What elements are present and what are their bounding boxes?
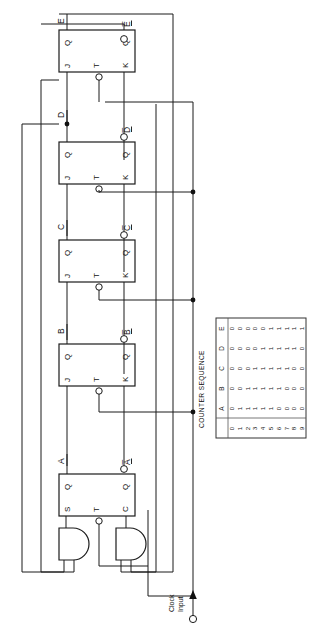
table-cell-D-1: 0 — [236, 346, 243, 350]
table-cell-A-1: 1 — [236, 406, 243, 410]
signal-label-B: B — [56, 328, 66, 334]
pin-label-D-T: T — [92, 175, 101, 180]
signal-B: B B̅ — [56, 324, 195, 470]
pin-label-C-Q: Q — [63, 250, 72, 256]
table-cell-B-0: 0 — [228, 386, 235, 390]
table-cell-C-9: 0 — [298, 366, 305, 370]
pin-label-C-K: K — [121, 272, 130, 278]
table-cell-B-9: 0 — [298, 386, 305, 390]
table-cell-B-3: 1 — [251, 386, 258, 390]
table-count-9: 9 — [298, 426, 305, 430]
pin-label-A-Qbar: Q — [121, 484, 130, 490]
circuit-diagram: Q Q J T K E E̅ Q Q J T K — [0, 0, 323, 630]
table-cell-A-0: 0 — [228, 406, 235, 410]
table-count-2: 2 — [244, 426, 251, 430]
pin-label-C-Qbar: Q — [121, 250, 130, 256]
table-cell-E-8: 1 — [290, 326, 297, 330]
table-count-0: 0 — [228, 426, 235, 430]
table-cell-D-4: 1 — [259, 346, 266, 350]
pin-label-A-C: C — [121, 506, 130, 512]
pin-label-E-J: J — [63, 64, 72, 68]
table-cell-C-5: 1 — [267, 366, 274, 370]
pin-label-D-J: J — [63, 176, 72, 180]
table-count-8: 8 — [290, 426, 297, 430]
pin-label-D-Q: Q — [63, 152, 72, 158]
table-caption: COUNTER SEQUENCE — [198, 350, 206, 428]
pin-label-C-J: J — [63, 274, 72, 278]
table-cell-A-8: 0 — [290, 406, 297, 410]
signal-label-D: D — [56, 112, 66, 118]
table-count-3: 3 — [251, 426, 258, 430]
table-cell-C-6: 1 — [275, 366, 282, 370]
table-cell-D-2: 0 — [244, 346, 251, 350]
table-cell-B-5: 1 — [267, 386, 274, 390]
and-gate-set[interactable] — [22, 516, 89, 572]
pin-label-E-K: K — [121, 62, 130, 68]
table-column-header-C: C — [218, 366, 225, 371]
table-cell-A-9: 0 — [298, 406, 305, 410]
table-cell-C-1: 0 — [236, 366, 243, 370]
table-column-header-D: D — [218, 346, 225, 351]
table-cell-D-8: 1 — [290, 346, 297, 350]
clock-input[interactable]: Clock Input — [168, 590, 197, 623]
table-cell-B-7: 0 — [283, 386, 290, 390]
signal-D: D D̅ — [56, 110, 195, 272]
pin-label-A-S: S — [63, 507, 72, 512]
table-cell-D-0: 0 — [228, 346, 235, 350]
pin-label-B-J: J — [63, 378, 72, 382]
signal-E: E E̅ — [41, 14, 132, 160]
signal-label-E: E — [56, 18, 66, 24]
counter-sequence-table: COUNTER SEQUENCE E0000011111D0000111110C… — [198, 318, 306, 438]
table-cell-A-4: 1 — [259, 406, 266, 410]
table-cell-A-2: 1 — [244, 406, 251, 410]
pin-label-C-T: T — [92, 273, 101, 278]
signal-label-D-bar: D̅ — [122, 127, 132, 133]
pin-label-B-Qbar: Q — [121, 354, 130, 360]
table-cell-D-6: 1 — [275, 346, 282, 350]
signal-C: C C̅ — [56, 220, 195, 374]
pin-label-D-K: K — [121, 174, 130, 180]
table-cell-B-8: 0 — [290, 386, 297, 390]
table-cell-D-9: 0 — [298, 346, 305, 350]
schematic-canvas: Q Q J T K E E̅ Q Q J T K — [0, 0, 323, 630]
table-count-7: 7 — [283, 426, 290, 430]
table-cell-B-4: 1 — [259, 386, 266, 390]
flipflop-A[interactable]: Q Q S T C — [59, 474, 135, 516]
signal-label-C-bar: C̅ — [122, 225, 132, 231]
table-cell-C-0: 0 — [228, 366, 235, 370]
table-cell-B-2: 1 — [244, 386, 251, 390]
clock-label-line1: Clock — [168, 594, 175, 612]
signal-label-C: C — [56, 224, 66, 230]
table-cell-D-5: 1 — [267, 346, 274, 350]
table-cell-E-2: 0 — [244, 326, 251, 330]
signal-label-A-bar: A̅ — [122, 459, 132, 465]
table-cell-C-3: 1 — [251, 366, 258, 370]
table-cell-B-1: 0 — [236, 386, 243, 390]
table-cell-B-6: 1 — [275, 386, 282, 390]
table-column-header-E: E — [218, 326, 225, 330]
table-column-header-A: A — [218, 406, 225, 411]
table-cell-E-9: 1 — [298, 326, 305, 330]
table-cell-A-6: 0 — [275, 406, 282, 410]
pin-label-E-T: T — [92, 63, 101, 68]
pin-label-A-Q: Q — [63, 484, 72, 490]
signal-label-B-bar: B̅ — [122, 329, 132, 335]
table-cell-D-7: 1 — [283, 346, 290, 350]
table-count-6: 6 — [275, 426, 282, 430]
clock-label-line2: Input — [177, 596, 185, 612]
table-cell-D-3: 0 — [251, 346, 258, 350]
table-cell-A-3: 1 — [251, 406, 258, 410]
table-cell-E-6: 1 — [275, 326, 282, 330]
pin-label-B-K: K — [121, 376, 130, 382]
table-cell-C-8: 0 — [290, 366, 297, 370]
pin-label-B-Q: Q — [63, 354, 72, 360]
table-cell-C-4: 1 — [259, 366, 266, 370]
pin-label-B-T: T — [92, 377, 101, 382]
pin-label-D-Qbar: Q — [121, 152, 130, 158]
table-cell-E-7: 1 — [283, 326, 290, 330]
table-cell-C-7: 1 — [283, 366, 290, 370]
table-count-4: 4 — [259, 426, 266, 430]
table-cell-E-3: 0 — [251, 326, 258, 330]
table-cell-E-4: 0 — [259, 326, 266, 330]
table-cell-E-5: 1 — [267, 326, 274, 330]
